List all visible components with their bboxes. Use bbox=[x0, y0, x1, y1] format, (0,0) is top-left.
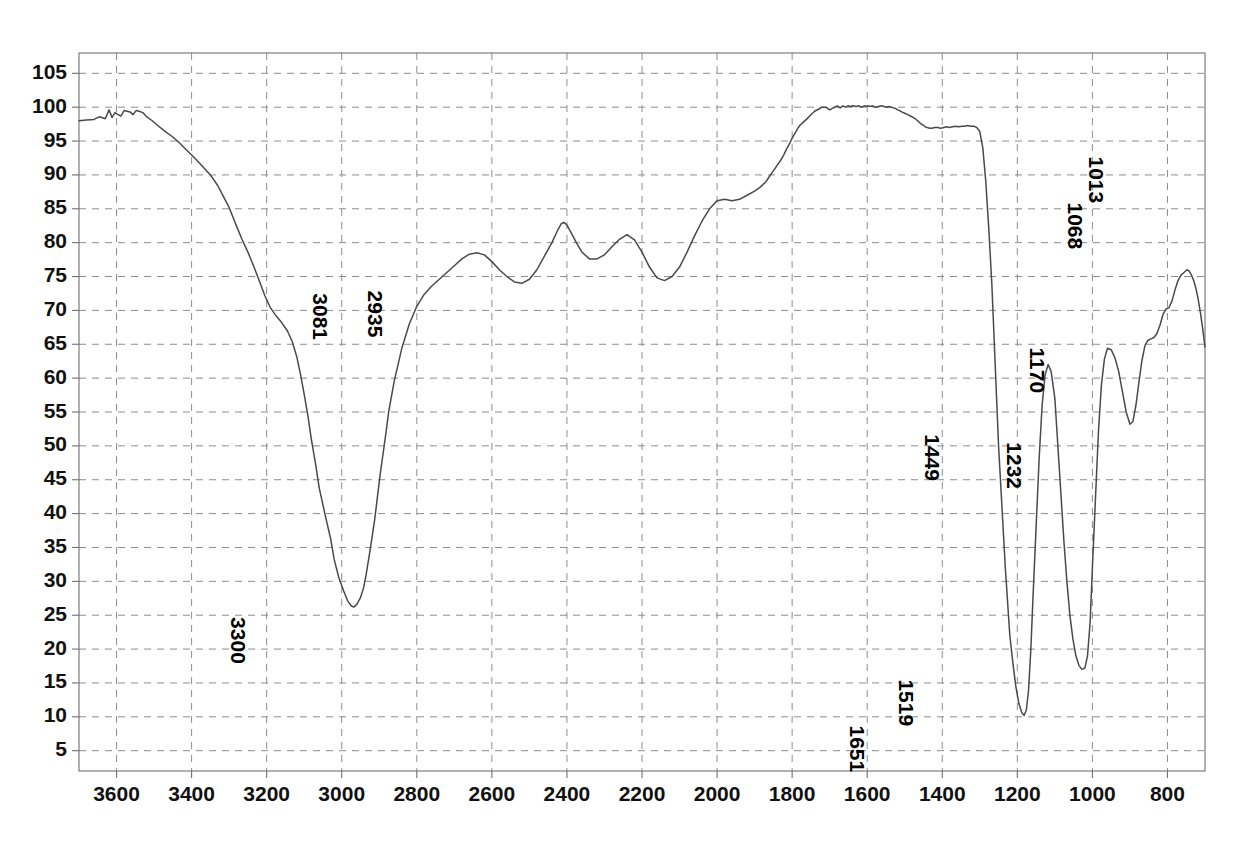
y-tick-label: 60 bbox=[44, 365, 67, 388]
y-tick-label: 25 bbox=[44, 602, 68, 625]
y-tick-label: 75 bbox=[44, 263, 68, 286]
x-tick-label: 3400 bbox=[168, 782, 215, 805]
y-tick-label: 10 bbox=[44, 703, 67, 726]
peak-label-1519: 1519 bbox=[895, 679, 918, 726]
y-tick-label: 50 bbox=[44, 432, 67, 455]
x-tick-label: 3600 bbox=[93, 782, 140, 805]
y-tick-label: 85 bbox=[44, 195, 68, 218]
y-tickmarks bbox=[72, 73, 79, 750]
y-tick-label: 5 bbox=[55, 737, 67, 760]
peak-label-3300: 3300 bbox=[227, 617, 250, 664]
peak-label-3081: 3081 bbox=[309, 293, 332, 340]
y-axis-tick-labels: 5101520253035404550556065707580859095100… bbox=[32, 60, 67, 760]
x-tick-label: 3000 bbox=[318, 782, 365, 805]
y-tick-label: 35 bbox=[44, 534, 68, 557]
x-tickmarks bbox=[117, 771, 1168, 778]
x-tick-label: 1000 bbox=[1069, 782, 1116, 805]
y-tick-label: 100 bbox=[32, 94, 67, 117]
x-tick-label: 1800 bbox=[769, 782, 816, 805]
peak-label-1232: 1232 bbox=[1003, 442, 1026, 489]
peak-label-1068: 1068 bbox=[1064, 203, 1087, 250]
y-tick-label: 105 bbox=[32, 60, 67, 83]
x-tick-label: 1200 bbox=[994, 782, 1041, 805]
y-tick-label: 45 bbox=[44, 466, 68, 489]
spectrum-plot: 5101520253035404550556065707580859095100… bbox=[0, 0, 1252, 845]
peak-label-2935: 2935 bbox=[364, 291, 387, 338]
x-tick-label: 800 bbox=[1150, 782, 1185, 805]
x-tick-label: 2600 bbox=[469, 782, 516, 805]
ir-spectrum-chart: 5101520253035404550556065707580859095100… bbox=[0, 0, 1252, 845]
y-tick-label: 90 bbox=[44, 161, 67, 184]
y-tick-label: 15 bbox=[44, 669, 68, 692]
x-tick-label: 1600 bbox=[844, 782, 891, 805]
y-tick-label: 20 bbox=[44, 636, 67, 659]
peak-label-1651: 1651 bbox=[846, 726, 869, 773]
x-tick-label: 2400 bbox=[544, 782, 591, 805]
y-tick-label: 55 bbox=[44, 399, 68, 422]
y-tick-label: 40 bbox=[44, 500, 67, 523]
x-tick-label: 2000 bbox=[694, 782, 741, 805]
y-tick-label: 65 bbox=[44, 331, 68, 354]
y-tick-label: 30 bbox=[44, 568, 67, 591]
x-tick-label: 2800 bbox=[393, 782, 440, 805]
peak-label-1449: 1449 bbox=[921, 434, 944, 481]
peak-label-1013: 1013 bbox=[1085, 157, 1108, 204]
peak-annotation-labels: 3300308129351651151914491232117010681013 bbox=[227, 157, 1108, 773]
y-tick-label: 70 bbox=[44, 297, 67, 320]
x-tick-label: 3200 bbox=[243, 782, 290, 805]
x-tick-label: 1400 bbox=[919, 782, 966, 805]
y-tick-label: 95 bbox=[44, 128, 68, 151]
y-tick-label: 80 bbox=[44, 229, 67, 252]
peak-label-1170: 1170 bbox=[1026, 348, 1049, 394]
x-axis-tick-labels: 3600340032003000280026002400220020001800… bbox=[93, 782, 1185, 805]
x-tick-label: 2200 bbox=[619, 782, 666, 805]
